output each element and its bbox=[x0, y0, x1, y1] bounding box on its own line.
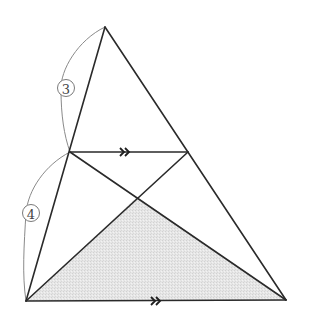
triangle-diagram: 3 4 bbox=[0, 0, 314, 332]
ratio-label-3: 3 bbox=[58, 80, 75, 97]
svg-text:3: 3 bbox=[62, 82, 70, 97]
ratio-label-4: 4 bbox=[23, 205, 40, 222]
shaded-triangle-bpc bbox=[26, 197, 286, 301]
svg-text:4: 4 bbox=[27, 207, 35, 222]
